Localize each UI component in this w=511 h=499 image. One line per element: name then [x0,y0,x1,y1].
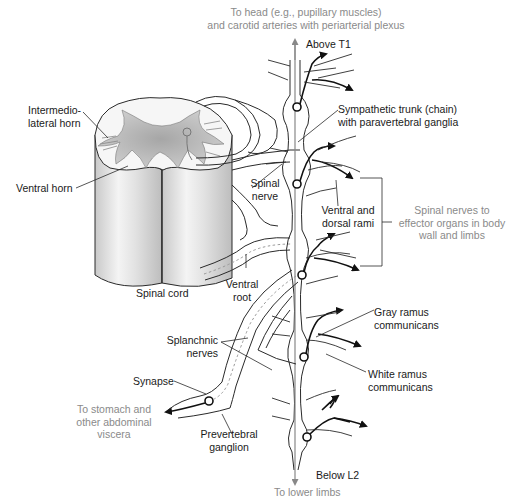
label-below-l2: Below L2 [316,469,359,482]
label-ventral-root-line2: root [222,291,262,304]
label-white-ramus-line2: communicans [368,381,433,394]
label-prevertebral-ganglion: Prevertebral ganglion [196,428,262,453]
label-spinal-nerves-effector: Spinal nerves to effector organs in body… [393,204,511,242]
label-to-head: To head (e.g., pupillary muscles) and ca… [196,6,416,31]
label-effector-line1: Spinal nerves to [393,204,511,217]
label-sympathetic-trunk: Sympathetic trunk (chain) with paraverte… [338,103,458,128]
label-intermediolateral-line1: Intermedio- [28,104,81,117]
label-sympathetic-trunk-line2: with paravertebral ganglia [338,116,458,129]
label-gray-ramus-line2: communicans [374,319,439,332]
label-intermediolateral-line2: lateral horn [28,117,81,130]
sympathetic-nervous-system-diagram: To head (e.g., pupillary muscles) and ca… [0,0,511,499]
label-to-stomach-line1: To stomach and [72,403,156,416]
label-to-head-line1: To head (e.g., pupillary muscles) [196,6,416,19]
label-prevertebral-line2: ganglion [196,441,262,454]
label-to-stomach-line2: other abdominal [72,416,156,429]
label-to-head-line2: and carotid arteries with periarterial p… [196,19,416,32]
label-spinal-nerve: Spinal nerve [244,177,286,202]
label-intermediolateral-horn: Intermedio- lateral horn [28,104,81,129]
label-splanchnic-line2: nerves [160,347,218,360]
label-splanchnic-nerves: Splanchnic nerves [160,334,218,359]
label-spinal-nerve-line1: Spinal [244,177,286,190]
label-gray-ramus-line1: Gray ramus [374,306,439,319]
label-effector-line2: effector organs in body [393,217,511,230]
spinal-cord [95,98,232,287]
spinal-nerve-upper [232,150,300,170]
label-rami-line1: Ventral and [316,204,380,217]
label-to-stomach-line3: viscera [72,428,156,441]
label-to-lower-limbs: To lower limbs [274,486,341,499]
label-prevertebral-line1: Prevertebral [196,428,262,441]
label-white-ramus: White ramus communicans [368,368,433,393]
label-synapse: Synapse [133,375,174,388]
label-effector-line3: wall and limbs [393,229,511,242]
label-sympathetic-trunk-line1: Sympathetic trunk (chain) [338,103,458,116]
label-above-t1: Above T1 [306,38,351,51]
label-ventral-horn: Ventral horn [16,182,73,195]
label-ventral-dorsal-rami: Ventral and dorsal rami [316,204,380,229]
label-rami-line2: dorsal rami [316,217,380,230]
label-ventral-root: Ventral root [222,278,262,303]
label-white-ramus-line1: White ramus [368,368,433,381]
label-spinal-nerve-line2: nerve [244,190,286,203]
label-gray-ramus: Gray ramus communicans [374,306,439,331]
label-spinal-cord: Spinal cord [136,287,189,300]
label-splanchnic-line1: Splanchnic [160,334,218,347]
label-to-stomach: To stomach and other abdominal viscera [72,403,156,441]
label-ventral-root-line1: Ventral [222,278,262,291]
